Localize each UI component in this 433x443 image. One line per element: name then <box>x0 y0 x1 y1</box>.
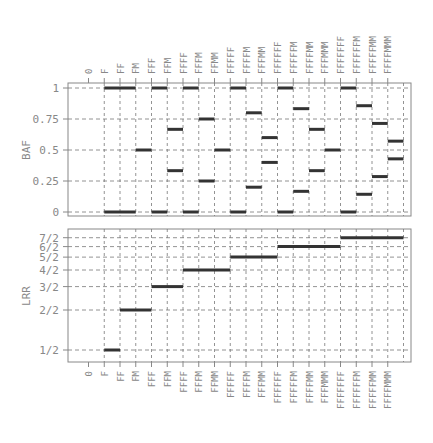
x-tick-label: FFFM <box>194 370 204 392</box>
x-tick-label: FFFMM <box>257 370 267 398</box>
x-tick-label: FFFFFM <box>289 41 299 74</box>
y-tick-label: 7/2 <box>39 232 59 245</box>
x-tick-label: FFFFMMM <box>383 35 393 74</box>
x-tick-label: FM <box>131 370 141 381</box>
lrr-plot-frame <box>68 229 411 362</box>
x-tick-label: FFFFFF <box>273 371 283 404</box>
y-tick-label: 1/2 <box>39 344 59 357</box>
baf-panel: 00.250.50.751BAF <box>20 78 411 219</box>
x-tick-label: FFFFF <box>226 371 236 398</box>
x-tick-label: FFM <box>163 57 173 74</box>
x-tick-label: FFFM <box>194 52 204 74</box>
x-tick-label: FFFMMM <box>320 370 330 403</box>
x-tick-label: FFFFMM <box>305 370 315 403</box>
x-tick-label: FFFFFFM <box>352 35 362 74</box>
x-tick-label: FFFFF <box>226 47 236 74</box>
x-tick-label: FFFFFFF <box>336 371 346 409</box>
x-tick-label: FF <box>116 63 126 74</box>
y-tick-label: 0.5 <box>39 144 59 157</box>
y-tick-label: 3/2 <box>39 281 59 294</box>
x-tick-label: FFFFFF <box>273 41 283 74</box>
bottom-x-tick-labels: 0FFFFMFFFFFMFFFFFFFMFFMMFFFFFFFFFMFFFMMF… <box>84 370 393 409</box>
y-axis-label: BAF <box>20 140 33 160</box>
x-tick-label: FFFFM <box>242 370 252 398</box>
x-tick-label: FFFFMM <box>305 41 315 74</box>
x-tick-label: 0 <box>84 371 94 376</box>
y-tick-label: 2/2 <box>39 304 59 317</box>
x-tick-label: FFFF <box>179 371 189 393</box>
x-tick-label: F <box>100 69 110 74</box>
lrr-panel: 1/22/23/24/25/26/27/2LRR <box>20 229 411 367</box>
y-tick-label: 4/2 <box>39 264 59 277</box>
x-tick-label: FFFFFFM <box>352 370 362 409</box>
x-tick-label: FM <box>131 63 141 74</box>
y-axis-label: LRR <box>20 286 33 306</box>
y-tick-label: 0.75 <box>33 113 60 126</box>
x-tick-label: FFM <box>163 370 173 387</box>
x-tick-label: FFFMM <box>257 46 267 74</box>
x-tick-label: FFFFMMM <box>383 370 393 409</box>
x-tick-label: FFFFM <box>242 46 252 74</box>
y-tick-label: 0 <box>52 206 59 219</box>
y-tick-label: 1 <box>52 82 59 95</box>
x-tick-label: FF <box>116 371 126 382</box>
chart-figure: 0FFFFMFFFFFMFFFFFFFMFFMMFFFFFFFFFMFFFMMF… <box>0 0 433 443</box>
x-tick-label: FFMM <box>210 52 220 74</box>
baf-plot-frame <box>68 83 411 216</box>
x-tick-label: FFMM <box>210 370 220 392</box>
x-tick-label: FFFF <box>179 52 189 74</box>
x-tick-label: FFFFFMM <box>368 370 378 409</box>
x-tick-label: FFFFFM <box>289 370 299 403</box>
y-tick-label: 0.25 <box>33 175 60 188</box>
x-tick-label: FFFFFFF <box>336 36 346 74</box>
x-tick-label: 0 <box>84 69 94 74</box>
x-tick-label: F <box>100 371 110 376</box>
x-tick-label: FFFMMM <box>320 41 330 74</box>
top-x-tick-labels: 0FFFFMFFFFFMFFFFFFFMFFMMFFFFFFFFFMFFFMMF… <box>84 35 393 74</box>
x-tick-label: FFF <box>147 371 157 387</box>
x-tick-label: FFF <box>147 58 157 74</box>
x-tick-label: FFFFFMM <box>368 35 378 74</box>
